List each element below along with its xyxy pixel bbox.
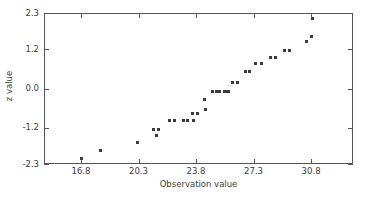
data-point (218, 90, 221, 93)
y-tick-mark (44, 89, 49, 90)
data-point (236, 81, 239, 84)
data-point (152, 128, 155, 131)
x-tick-mark (81, 159, 82, 164)
data-point (244, 70, 247, 73)
y-tick-mark-right (348, 13, 353, 14)
data-point (204, 108, 207, 111)
y-tick-mark (44, 13, 49, 14)
data-point (196, 112, 199, 115)
plot-area-frame (44, 13, 353, 164)
x-tick-mark (196, 159, 197, 164)
data-point (288, 49, 291, 52)
x-tick-label: 30.8 (291, 166, 331, 176)
x-tick-label: 23.8 (176, 166, 216, 176)
data-point (269, 56, 272, 59)
y-tick-mark (44, 49, 49, 50)
data-point (231, 81, 234, 84)
x-tick-label: 20.3 (119, 166, 159, 176)
data-point (248, 70, 251, 73)
data-point (99, 149, 102, 152)
y-tick-mark-right (348, 164, 353, 165)
y-tick-label: 1.2 (0, 45, 39, 54)
scatter-chart-figure: -2.3-1.20.01.22.3 16.820.323.827.330.8 O… (0, 0, 368, 201)
data-point (136, 141, 139, 144)
data-point (157, 128, 160, 131)
x-axis-title: Observation value (44, 179, 353, 189)
y-tick-label: 2.3 (0, 9, 39, 18)
data-point (310, 35, 313, 38)
data-point (186, 119, 189, 122)
data-point (305, 40, 308, 43)
data-point (254, 62, 257, 65)
y-tick-mark-right (348, 89, 353, 90)
data-point (274, 56, 277, 59)
x-tick-mark (254, 159, 255, 164)
data-point (191, 112, 194, 115)
data-point (155, 134, 158, 137)
data-point (182, 119, 185, 122)
x-tick-mark-top (254, 13, 255, 18)
x-tick-mark (311, 159, 312, 164)
data-point (173, 119, 176, 122)
y-tick-label: -2.3 (0, 160, 39, 169)
data-point (211, 90, 214, 93)
x-tick-label: 16.8 (61, 166, 101, 176)
data-point (260, 62, 263, 65)
y-tick-mark-right (348, 49, 353, 50)
y-tick-mark (44, 128, 49, 129)
y-tick-mark-right (348, 128, 353, 129)
x-tick-mark-top (196, 13, 197, 18)
data-point (283, 49, 286, 52)
data-points-layer (45, 14, 352, 163)
y-tick-mark (44, 164, 49, 165)
x-tick-mark-top (139, 13, 140, 18)
x-tick-mark-top (81, 13, 82, 18)
x-tick-mark (139, 159, 140, 164)
data-point (224, 90, 227, 93)
y-tick-label: -1.2 (0, 123, 39, 132)
data-point (192, 119, 195, 122)
data-point (168, 119, 171, 122)
y-axis-title: z value (4, 56, 14, 116)
data-point (203, 98, 206, 101)
x-tick-label: 27.3 (234, 166, 274, 176)
x-tick-mark-top (311, 13, 312, 18)
